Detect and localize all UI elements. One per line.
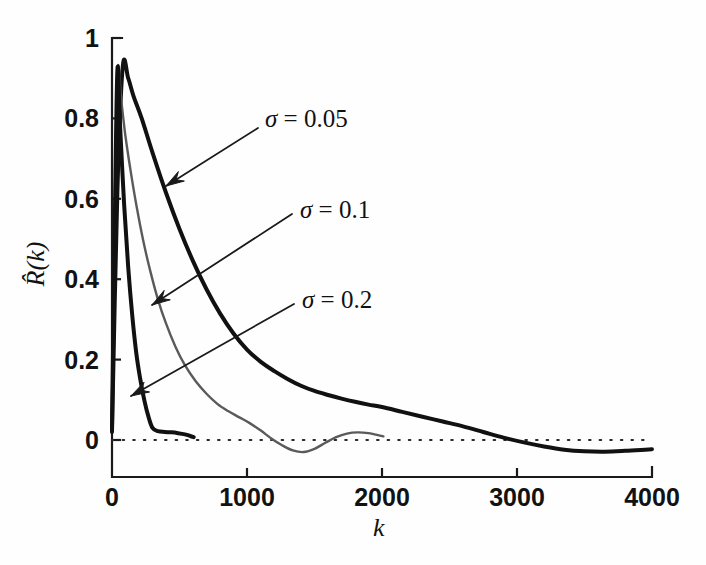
- x-tick-label: 1000: [219, 483, 275, 511]
- y-tick-label: 0.4: [64, 265, 99, 293]
- annotation-arrow-shaft-1: [166, 128, 258, 186]
- y-tick-label: 0.8: [64, 104, 99, 132]
- y-tick-label: 0: [85, 426, 99, 454]
- figure-container: 01000200030004000 00.20.40.60.81 σ = 0.0…: [0, 0, 706, 565]
- annotation-label-2: σ = 0.1: [300, 196, 370, 224]
- y-tick-label: 0.6: [64, 185, 99, 213]
- x-tick-label: 2000: [354, 483, 410, 511]
- x-tick-label: 4000: [624, 483, 680, 511]
- x-axis-title: k: [373, 513, 385, 543]
- x-tick-label: 3000: [489, 483, 545, 511]
- data-series-group: [112, 59, 652, 452]
- annotation-arrow-shaft-2: [152, 214, 292, 305]
- series-line-sigma_0.05: [112, 59, 652, 451]
- y-tick-labels: 00.20.40.60.81: [64, 24, 99, 454]
- x-tick-labels: 01000200030004000: [105, 483, 680, 511]
- annotation-arrow-head-1: [166, 172, 184, 186]
- annotation-label-3: σ = 0.2: [302, 286, 372, 314]
- chart-canvas: 01000200030004000 00.20.40.60.81: [0, 0, 706, 565]
- annotation-arrow-shaft-3: [131, 304, 294, 396]
- annotation-arrows: [131, 128, 294, 396]
- y-tick-label: 1: [85, 24, 99, 52]
- y-tick-label: 0.2: [64, 346, 99, 374]
- annotation-label-1: σ = 0.05: [265, 105, 348, 133]
- y-axis-title: R̂(k): [21, 242, 51, 287]
- x-tick-label: 0: [105, 483, 119, 511]
